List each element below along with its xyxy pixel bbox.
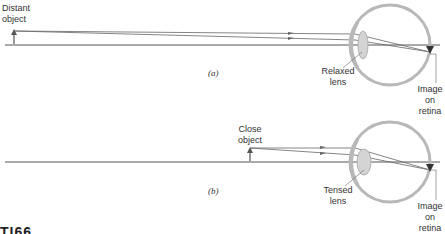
image-on-retina-label-b: Image on retina: [415, 201, 445, 234]
relaxed-lens: [358, 31, 368, 59]
panel-a: [5, 5, 440, 85]
retina-image-icon: [426, 164, 434, 172]
panel-b: [5, 122, 440, 202]
distant-object-label: Distant object: [2, 3, 42, 25]
ray-arrow-icon: [320, 152, 326, 155]
relaxed-lens-label: Relaxed lens: [318, 66, 358, 88]
tensed-lens: [357, 149, 371, 175]
tensed-lens-label: Tensed lens: [318, 185, 358, 207]
retina-image-icon: [426, 46, 434, 54]
panel-b-caption: (b): [208, 186, 219, 196]
ray-arrow-icon: [320, 146, 326, 149]
arrowhead-icon: [11, 29, 17, 35]
figure-number-fragment: TI66: [0, 224, 32, 234]
image-on-retina-label-a: Image on retina: [415, 84, 445, 117]
close-object-label: Close object: [232, 124, 268, 146]
panel-a-caption: (a): [208, 68, 219, 78]
diagram-canvas: [0, 0, 445, 234]
